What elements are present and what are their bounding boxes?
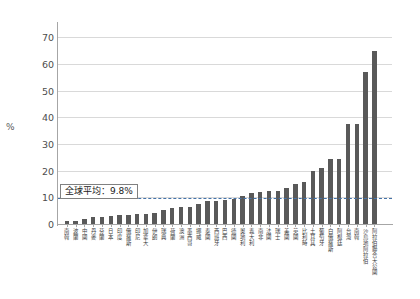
x-category-label: 義大利 bbox=[247, 229, 256, 247]
x-tick bbox=[251, 224, 252, 227]
bar bbox=[214, 201, 218, 224]
y-tick-label: 0 bbox=[28, 219, 54, 230]
bar bbox=[170, 208, 174, 224]
x-tick bbox=[172, 224, 173, 227]
x-category-label: 印度 bbox=[115, 229, 124, 241]
x-tick bbox=[234, 224, 235, 227]
x-category-label: 法國 bbox=[265, 229, 274, 241]
x-category-label: 葡萄牙 bbox=[317, 229, 326, 247]
bar bbox=[293, 184, 297, 224]
x-category-label: 奧地利 bbox=[238, 229, 247, 247]
x-tick bbox=[111, 224, 112, 227]
x-tick bbox=[304, 224, 305, 227]
x-category-label: 加拿大 bbox=[142, 229, 151, 247]
bar bbox=[179, 207, 183, 224]
x-tick bbox=[278, 224, 279, 227]
x-category-label: 阿拉伯聯合大公國 bbox=[370, 229, 379, 276]
bar bbox=[267, 191, 271, 224]
bar bbox=[284, 188, 288, 224]
x-tick bbox=[146, 224, 147, 227]
x-tick bbox=[102, 224, 103, 227]
x-tick bbox=[199, 224, 200, 227]
bar bbox=[363, 72, 367, 224]
x-category-label: 挪威 bbox=[194, 229, 203, 241]
x-tick bbox=[269, 224, 270, 227]
bar bbox=[205, 201, 209, 224]
x-category-label: 德國 bbox=[229, 229, 238, 241]
y-tick-label: 60 bbox=[28, 59, 54, 70]
bar bbox=[91, 217, 95, 224]
x-category-label: 日本 bbox=[106, 229, 115, 241]
bar bbox=[346, 124, 350, 224]
x-category-label: 芬蘭 bbox=[98, 229, 107, 241]
x-tick bbox=[339, 224, 340, 227]
y-axis-label: % bbox=[6, 122, 15, 132]
y-tick-label: 20 bbox=[28, 165, 54, 176]
x-category-label: 白俄羅斯 bbox=[326, 229, 335, 253]
x-axis-category-labels: 南韓波蘭中國丹麥芬蘭日本印度俄羅斯印尼加拿大伊朗瑞典荷蘭澳洲墨西哥挪威泰國西班牙… bbox=[58, 229, 392, 299]
x-category-label: 台灣 bbox=[344, 229, 353, 241]
x-category-label: 南韓 bbox=[62, 229, 71, 241]
x-category-label: 澳洲 bbox=[177, 229, 186, 241]
bar-chart: % 010203040506070 全球平均：9.8% 南韓波蘭中國丹麥芬蘭日本… bbox=[0, 0, 420, 299]
bar bbox=[126, 215, 130, 224]
x-tick bbox=[374, 224, 375, 227]
x-tick bbox=[84, 224, 85, 227]
bar bbox=[355, 124, 359, 224]
bar bbox=[135, 214, 139, 224]
y-axis-tick-labels: 010203040506070 bbox=[22, 0, 54, 299]
x-category-label: 美國 bbox=[282, 229, 291, 241]
x-category-label: 中國 bbox=[80, 229, 89, 241]
x-category-label: 荷蘭 bbox=[168, 229, 177, 241]
bar bbox=[276, 191, 280, 224]
bar bbox=[109, 216, 113, 224]
x-category-label: 南韓 bbox=[353, 229, 362, 241]
bar bbox=[196, 204, 200, 224]
y-tick-label: 30 bbox=[28, 139, 54, 150]
bar bbox=[302, 182, 306, 224]
y-tick-label: 40 bbox=[28, 112, 54, 123]
y-tick-label: 50 bbox=[28, 85, 54, 96]
x-tick bbox=[225, 224, 226, 227]
x-tick bbox=[155, 224, 156, 227]
x-tick bbox=[322, 224, 323, 227]
bar bbox=[152, 213, 156, 224]
x-tick bbox=[67, 224, 68, 227]
bar bbox=[328, 159, 332, 224]
x-category-label: 泰國 bbox=[203, 229, 212, 241]
x-tick bbox=[163, 224, 164, 227]
x-category-label: 印尼 bbox=[133, 229, 142, 241]
x-tick bbox=[330, 224, 331, 227]
x-tick bbox=[348, 224, 349, 227]
x-category-label: 西班牙 bbox=[212, 229, 221, 247]
x-tick bbox=[260, 224, 261, 227]
x-tick bbox=[120, 224, 121, 227]
x-category-label: 阿根廷 bbox=[335, 229, 344, 247]
global-average-callout: 全球平均：9.8% bbox=[60, 184, 138, 199]
x-category-label: 瑞典 bbox=[159, 229, 168, 241]
x-category-label: 英國 bbox=[291, 229, 300, 241]
x-category-label: 南非 bbox=[256, 229, 265, 241]
x-tick bbox=[128, 224, 129, 227]
x-category-label: 土耳其 bbox=[309, 229, 318, 247]
bar bbox=[161, 210, 165, 224]
x-category-label: 比利時 bbox=[300, 229, 309, 247]
x-tick bbox=[181, 224, 182, 227]
x-tick bbox=[76, 224, 77, 227]
bar bbox=[223, 200, 227, 224]
x-category-label: 波蘭 bbox=[71, 229, 80, 241]
x-category-label: 巴西 bbox=[221, 229, 230, 241]
x-category-label: 丹麥 bbox=[89, 229, 98, 241]
x-tick bbox=[287, 224, 288, 227]
x-category-label: 俄羅斯 bbox=[124, 229, 133, 247]
x-tick bbox=[295, 224, 296, 227]
y-tick-label: 70 bbox=[28, 32, 54, 43]
bar bbox=[232, 199, 236, 224]
bar bbox=[258, 192, 262, 224]
x-tick bbox=[313, 224, 314, 227]
bar bbox=[117, 215, 121, 224]
x-tick bbox=[357, 224, 358, 227]
x-tick bbox=[366, 224, 367, 227]
x-category-label: 伊朗 bbox=[150, 229, 159, 241]
y-tick-label: 10 bbox=[28, 192, 54, 203]
